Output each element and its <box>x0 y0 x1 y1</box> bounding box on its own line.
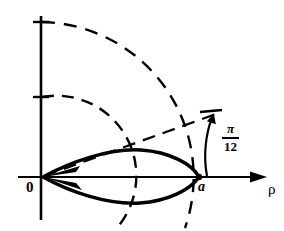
radial-ray-cap <box>200 110 222 112</box>
inner-dashed-arc <box>42 96 136 229</box>
angle-label-pi-over-12: π 12 <box>222 122 239 153</box>
polar-diagram-svg <box>0 0 284 231</box>
origin-label: 0 <box>26 180 34 195</box>
angle-denominator: 12 <box>222 139 239 154</box>
rho-axis-label: ρ <box>268 182 276 197</box>
point-a-label: a <box>198 180 205 194</box>
rho-axis-arrowhead <box>250 172 267 183</box>
angle-indicator-arc <box>205 118 212 176</box>
figure-container: 0 a ρ π 12 <box>0 0 284 231</box>
angle-numerator: π <box>222 122 239 137</box>
